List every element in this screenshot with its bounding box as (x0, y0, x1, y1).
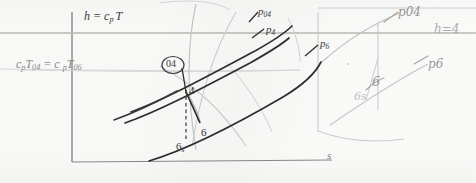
hand-p6-text: p6 (428, 57, 443, 71)
p04-line (131, 26, 292, 112)
eq-T04-sub: 04 (32, 63, 40, 72)
state-04-text: 04 (166, 58, 176, 69)
p4-sub: 4 (272, 28, 276, 37)
pressure-label-p4: p4 (266, 24, 275, 36)
state-label-04: 04 (166, 59, 176, 69)
hand-6s-text: 6s (354, 90, 367, 103)
stagnation-enthalpy-equation: cpT04= cpT06 (16, 58, 82, 72)
state-label-6: 6 (201, 127, 207, 138)
state-4-text: 4 (189, 84, 195, 96)
constant-pressure-lines (114, 26, 321, 161)
construction-curves (160, 4, 300, 150)
y-axis-label-tail: T (116, 9, 123, 23)
figure-canvas: h = cpT s cpT04= cpT06 p04 p4 p6 04 4 6 … (0, 0, 476, 183)
state-label-4: 4 (189, 85, 195, 96)
hand-label-p6: p6 (428, 58, 443, 70)
x-axis-label-text: s (327, 149, 331, 161)
hand-label-6s: 6s (354, 91, 367, 102)
hand-label-h04: h=4 (434, 23, 459, 35)
pressure-label-p6: p6 (320, 38, 329, 50)
hand-label-p04: p04 (398, 6, 421, 18)
hand-label-6: 6 (372, 75, 380, 88)
hand-h04-text: h=4 (434, 22, 459, 36)
state-6s-sub: s (182, 145, 185, 154)
process-path-4-to-6 (186, 92, 200, 123)
p04-sub: 04 (264, 10, 271, 19)
x-axis-label: s (327, 150, 331, 161)
p6-sub: 6 (326, 42, 330, 51)
state-6-text: 6 (201, 126, 207, 138)
pressure-label-p04: p04 (258, 6, 271, 18)
state-label-6s: 6s (176, 141, 184, 153)
p6-line (149, 62, 321, 161)
hand-p04-text: p04 (398, 5, 421, 19)
y-axis-label: h = cpT (84, 10, 122, 24)
y-axis-label-sub: p (109, 15, 113, 24)
eq-T06-sub: 06 (73, 63, 81, 72)
eq-equals-cp2: = c (43, 57, 59, 71)
diagram-svg (0, 0, 476, 183)
y-axis-label-text: h = c (84, 9, 109, 23)
hand-6-text: 6 (372, 74, 380, 89)
